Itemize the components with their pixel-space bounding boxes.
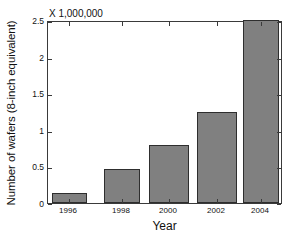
bar-chart: Number of wafers (8-inch equivalent) X 1… <box>0 0 301 249</box>
y-tick-label: 1 <box>2 126 44 136</box>
y-tick-mark-right <box>277 95 281 96</box>
x-tick-mark-top <box>169 22 170 26</box>
x-axis-title: Year <box>47 219 282 233</box>
x-tick-label: 1996 <box>46 206 90 215</box>
x-tick-mark <box>69 199 70 203</box>
y-tick-label: 0.5 <box>2 162 44 172</box>
x-tick-mark-top <box>122 22 123 26</box>
x-tick-mark <box>217 199 218 203</box>
x-tick-mark <box>261 199 262 203</box>
y-tick-mark-right <box>277 168 281 169</box>
y-tick-label: 0 <box>2 199 44 209</box>
x-axis-tick-labels: 1996 1998 2000 2002 2004 <box>47 206 282 220</box>
x-tick-mark <box>122 199 123 203</box>
x-tick-mark-top <box>69 22 70 26</box>
plot-area <box>47 21 282 204</box>
bar-2004 <box>243 20 279 203</box>
y-tick-mark <box>48 59 52 60</box>
y-tick-mark <box>48 204 52 205</box>
y-tick-mark <box>48 22 52 23</box>
bar-1998 <box>104 169 140 203</box>
bar-2002 <box>197 112 237 204</box>
x-tick-label: 2000 <box>146 206 190 215</box>
y-tick-label: 2 <box>2 53 44 63</box>
y-tick-label: 2.5 <box>2 16 44 26</box>
y-axis-tick-labels: 0 0.5 1 1.5 2 2.5 <box>0 21 44 204</box>
y-tick-mark <box>48 168 52 169</box>
x-tick-label: 2002 <box>194 206 238 215</box>
y-tick-mark-right <box>277 59 281 60</box>
y-tick-mark <box>48 95 52 96</box>
y-tick-mark-right <box>277 204 281 205</box>
y-tick-label: 1.5 <box>2 89 44 99</box>
x-tick-mark-top <box>217 22 218 26</box>
y-tick-mark-right <box>277 132 281 133</box>
x-tick-mark-top <box>261 22 262 26</box>
y-axis-multiplier-label: X 1,000,000 <box>49 8 103 19</box>
x-tick-label: 1998 <box>99 206 143 215</box>
y-tick-mark-right <box>277 22 281 23</box>
y-tick-mark <box>48 132 52 133</box>
bar-2000 <box>149 145 189 203</box>
x-tick-label: 2004 <box>238 206 282 215</box>
bars-layer <box>48 22 281 203</box>
x-tick-mark <box>169 199 170 203</box>
